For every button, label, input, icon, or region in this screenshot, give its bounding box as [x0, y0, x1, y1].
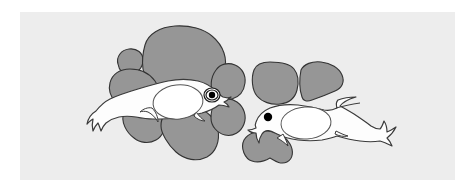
illustration-root: Two larval fish with yolk sacs over gray… — [0, 0, 474, 191]
eye-right-fish-pupil — [264, 113, 272, 121]
illustration-svg: Two larval fish with yolk sacs over gray… — [0, 0, 474, 191]
blob-right-left-box — [252, 62, 298, 104]
eye-left-fish-pupil — [209, 92, 215, 98]
